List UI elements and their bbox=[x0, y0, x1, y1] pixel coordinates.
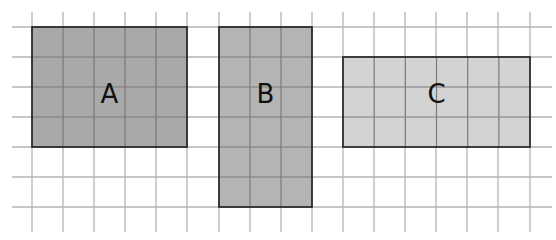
grid-diagram: A B C bbox=[0, 0, 556, 240]
rectangle-c-label: C bbox=[427, 79, 445, 109]
rectangle-b: B bbox=[219, 27, 312, 207]
rectangle-a-label: A bbox=[101, 79, 119, 109]
rectangle-c: C bbox=[343, 57, 530, 147]
rectangle-a: A bbox=[32, 27, 187, 147]
rectangle-b-label: B bbox=[257, 79, 275, 109]
rectangles: A B C bbox=[32, 27, 530, 207]
